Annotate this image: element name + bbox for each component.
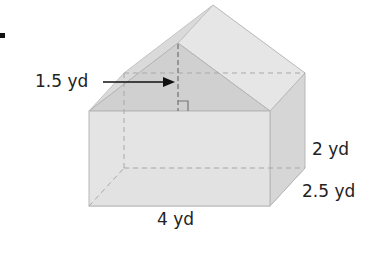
box-length-label: 4 yd: [157, 211, 194, 228]
box-depth-label: 2.5 yd: [302, 183, 355, 200]
box-height-label: 2 yd: [312, 141, 349, 158]
roof-height-label: 1.5 yd: [35, 73, 88, 90]
box-front-face: [89, 111, 270, 206]
